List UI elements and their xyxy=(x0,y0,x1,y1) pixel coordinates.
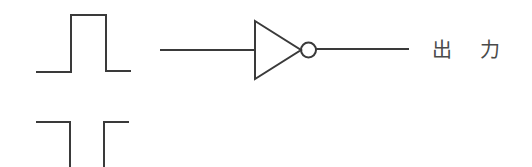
input-pulse-waveform xyxy=(37,15,130,72)
output-label-char-2: 力 xyxy=(480,38,500,62)
inverter-bubble-icon xyxy=(301,43,316,58)
not-gate-diagram: 出 力 xyxy=(0,0,532,167)
output-pulse-waveform xyxy=(37,122,128,167)
not-gate-icon xyxy=(255,21,316,79)
output-label-char-1: 出 xyxy=(432,38,452,62)
